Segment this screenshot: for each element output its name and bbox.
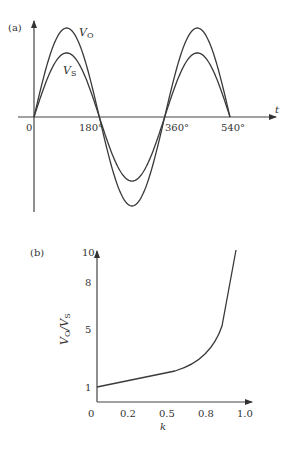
- gain-curve: [97, 250, 236, 387]
- tick-0: 0: [26, 122, 32, 133]
- xtick-1.0: 1.0: [237, 408, 253, 419]
- tick-540: 540°: [221, 122, 245, 133]
- panel-a: (a) t 0 180° 360° 540° VO VS: [8, 21, 280, 212]
- vs-label: VS: [63, 64, 76, 78]
- panel-a-label: (a): [8, 22, 22, 33]
- panel-b-label: (b): [30, 247, 44, 258]
- k-axis-label: k: [160, 421, 166, 432]
- xtick-0.5: 0.5: [159, 408, 175, 419]
- tick-180: 180°: [79, 122, 103, 133]
- tick-360: 360°: [165, 122, 189, 133]
- xtick-0: 0: [88, 408, 94, 419]
- ytick-8: 8: [85, 277, 91, 288]
- ytick-10: 10: [82, 247, 95, 258]
- y-axis-label-b: VO/VS: [58, 313, 72, 345]
- xtick-0.2: 0.2: [120, 408, 136, 419]
- ytick-1: 1: [85, 382, 91, 393]
- panel-b: (b) 10 8 5 1 0 0.2 0.5 0.8 1.0 k VO/VS: [30, 247, 253, 432]
- t-axis-label: t: [275, 104, 280, 115]
- vo-label: VO: [79, 26, 94, 40]
- ytick-5: 5: [85, 324, 91, 335]
- xtick-0.8: 0.8: [198, 408, 214, 419]
- figure: (a) t 0 180° 360° 540° VO VS (b) 10 8 5 …: [0, 0, 291, 449]
